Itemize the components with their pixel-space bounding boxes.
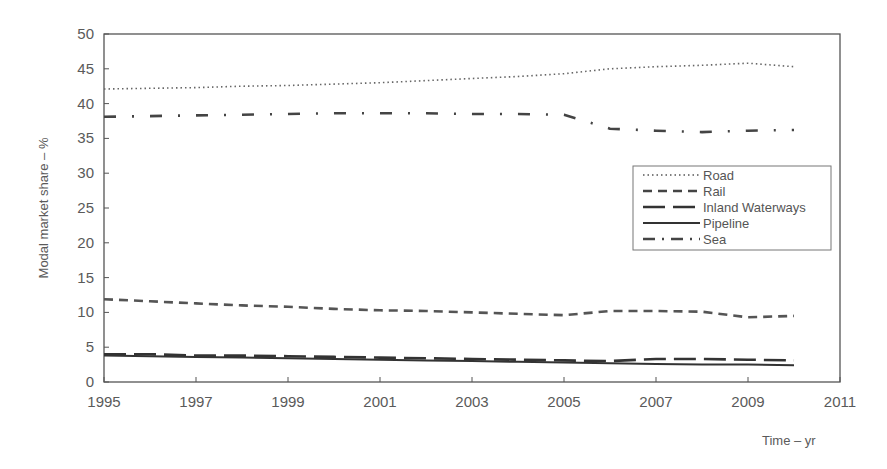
x-tick-label: 2001 bbox=[363, 393, 396, 410]
x-tick-label: 2009 bbox=[731, 393, 764, 410]
x-tick-label: 2005 bbox=[547, 393, 580, 410]
y-tick-label: 5 bbox=[86, 338, 94, 355]
x-tick-label: 2007 bbox=[639, 393, 672, 410]
y-tick-label: 15 bbox=[77, 269, 94, 286]
series-rail bbox=[104, 299, 794, 317]
y-tick-label: 20 bbox=[77, 234, 94, 251]
legend: Road Rail Inland Waterways Pipeline Sea bbox=[633, 166, 831, 250]
y-tick-label: 30 bbox=[77, 164, 94, 181]
legend-label: Sea bbox=[703, 232, 727, 247]
y-tick-label: 40 bbox=[77, 95, 94, 112]
x-tick-label: 2003 bbox=[455, 393, 488, 410]
legend-label: Rail bbox=[703, 184, 726, 199]
y-tick-label: 10 bbox=[77, 303, 94, 320]
y-tick-label: 35 bbox=[77, 129, 94, 146]
y-tick-label: 25 bbox=[77, 199, 94, 216]
y-axis-title: Modal market share – % bbox=[36, 137, 51, 278]
y-tick-label: 45 bbox=[77, 60, 94, 77]
x-axis-title: Time – yr bbox=[762, 433, 816, 448]
x-tick-label: 1997 bbox=[179, 393, 212, 410]
legend-label: Pipeline bbox=[703, 216, 749, 231]
y-tick-label: 50 bbox=[77, 25, 94, 42]
series-pipeline bbox=[104, 356, 794, 366]
legend-label: Inland Waterways bbox=[703, 200, 806, 215]
line-chart: 05101520253035404550 1995199719992001200… bbox=[0, 0, 887, 469]
series-road bbox=[104, 63, 794, 89]
y-tick-label: 0 bbox=[86, 373, 94, 390]
x-tick-label: 1995 bbox=[87, 393, 120, 410]
series-sea bbox=[104, 113, 794, 132]
x-tick-label: 1999 bbox=[271, 393, 304, 410]
x-tick-label: 2011 bbox=[824, 393, 856, 410]
legend-label: Road bbox=[703, 168, 734, 183]
